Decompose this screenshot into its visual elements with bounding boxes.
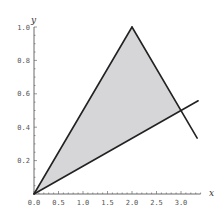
y-axis-label: y <box>30 15 37 25</box>
x-tick-label: 3.0 <box>175 199 188 207</box>
y-tick-label: 0.6 <box>17 90 30 98</box>
x-tick-label: 1.0 <box>77 199 90 207</box>
y-tick-label: 0.4 <box>17 124 30 132</box>
x-tick-label: 2.5 <box>150 199 163 207</box>
y-tick-label: 0.8 <box>17 57 30 65</box>
x-tick-label: 1.5 <box>101 199 114 207</box>
chart: 0.00.51.01.52.02.53.00.20.40.60.81.0xy <box>0 0 220 218</box>
x-tick-label: 2.0 <box>126 199 139 207</box>
y-tick-label: 1.0 <box>17 24 30 32</box>
x-tick-label: 0.5 <box>52 199 65 207</box>
y-tick-label: 0.2 <box>17 157 30 165</box>
x-tick-label: 0.0 <box>28 199 41 207</box>
shaded-region <box>34 27 181 194</box>
x-axis-label: x <box>209 188 214 198</box>
